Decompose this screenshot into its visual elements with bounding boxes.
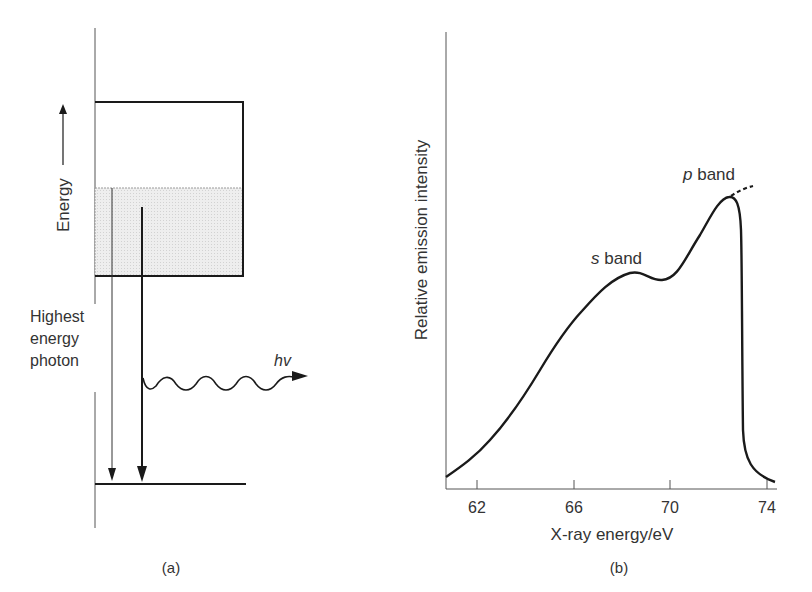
panel-b-caption: (b) [610, 559, 628, 576]
energy-arrowhead-icon [59, 104, 67, 114]
highest-energy-photon-label: Highest energy photon [30, 308, 89, 369]
photon-wave [143, 377, 294, 391]
filled-band [95, 188, 243, 276]
x-tick-label-70: 70 [661, 499, 679, 516]
annotation-line-3: photon [30, 352, 79, 369]
annotation-line-1: Highest [30, 308, 85, 325]
x-tick-label-62: 62 [468, 499, 486, 516]
y-axis-label: Relative emission intensity [412, 139, 431, 340]
panel-a-caption: (a) [162, 559, 180, 576]
x-tick-label-74: 74 [758, 499, 776, 516]
figure: Energy Highest energy photon hv (a) 62 6… [0, 0, 812, 592]
x-tick-label-66: 66 [565, 499, 583, 516]
s-band-label: s band [591, 249, 642, 268]
photon-hv-label: hv [274, 352, 292, 369]
photon-arrowhead-icon [292, 371, 308, 381]
emission-spectrum-curve [446, 197, 775, 482]
annotation-line-2: energy [30, 330, 79, 347]
p-band-label: p band [682, 165, 735, 184]
thick-arrowhead-icon [137, 466, 147, 482]
panel-b-emission-chart: 62 66 70 74 X-ray energy/eV Relative emi… [412, 32, 777, 576]
p-band-dashed-extension [731, 186, 753, 196]
panel-a-energy-diagram: Energy Highest energy photon hv (a) [30, 28, 308, 576]
thin-arrowhead-icon [108, 468, 116, 481]
x-axis-label: X-ray energy/eV [551, 525, 674, 544]
energy-label: Energy [54, 178, 73, 232]
